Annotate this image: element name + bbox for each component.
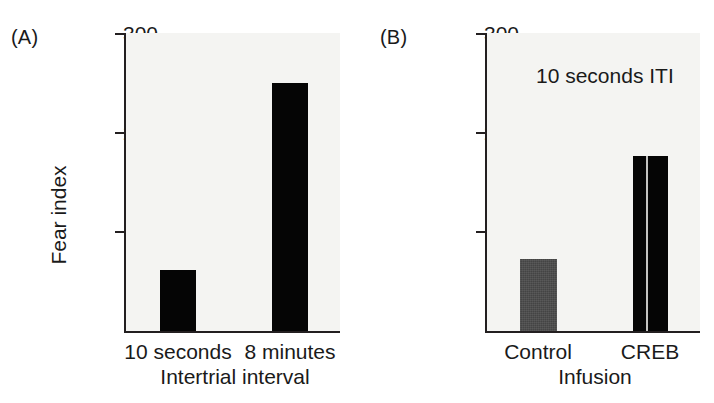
panel-a-bar-10-seconds[interactable] [160, 270, 196, 331]
panel-b-category-label-1: CREB [621, 341, 679, 362]
panel-a-label: (A) [11, 26, 38, 49]
panel-a-bar-8-minutes[interactable] [272, 83, 308, 331]
panel-b-annotation: 10 seconds ITI [536, 65, 674, 86]
panel-b-tick-200 [476, 132, 485, 134]
panel-a-plot-area [124, 33, 340, 333]
panel-b-bar-creb[interactable] [633, 156, 668, 331]
panel-a-tick-300 [115, 33, 124, 35]
panel-a: (A) Fear index 300 200 100 10 seconds 8 … [0, 0, 360, 403]
panel-a-y-axis-title: Fear index [48, 165, 69, 264]
panel-a-y-axis-line [124, 33, 126, 333]
panel-a-x-axis-title: Intertrial interval [160, 366, 309, 387]
panel-a-x-axis-line [124, 331, 340, 333]
panel-b-bar-control[interactable] [520, 259, 557, 331]
panel-a-category-label-0: 10 seconds [124, 341, 231, 362]
panel-a-category-label-1: 8 minutes [244, 341, 335, 362]
panel-b-y-axis-line [485, 33, 487, 333]
scan-artifact-streak [646, 156, 648, 331]
panel-a-tick-200 [115, 132, 124, 134]
panel-b-category-label-0: Control [504, 341, 572, 362]
panel-b-x-axis-title: Infusion [558, 366, 632, 387]
panel-b-plot-area: 10 seconds ITI [485, 33, 700, 333]
figure-bar-charts: (A) Fear index 300 200 100 10 seconds 8 … [0, 0, 714, 403]
panel-b-label: (B) [380, 26, 407, 49]
panel-a-tick-100 [115, 231, 124, 233]
panel-b-tick-300 [476, 33, 485, 35]
panel-b-tick-100 [476, 231, 485, 233]
panel-b: (B) 300 200 100 10 seconds ITI Control C… [360, 0, 714, 403]
panel-b-x-axis-line [485, 331, 700, 333]
